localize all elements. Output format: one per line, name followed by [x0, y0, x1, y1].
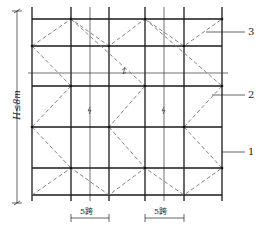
height-label: H≤8m	[12, 90, 22, 120]
span-label-left: 5跨	[80, 205, 93, 216]
span-label-right: 5跨	[154, 205, 167, 216]
horizontal-ledgers	[28, 19, 228, 195]
vertical-standards	[32, 7, 222, 201]
callout-1: 1	[248, 146, 254, 157]
scaffold-diagram	[0, 0, 265, 230]
callout-leaders	[206, 32, 245, 152]
callout-3: 3	[248, 26, 254, 37]
callout-2: 2	[248, 89, 254, 100]
joint-nodes	[31, 18, 224, 170]
